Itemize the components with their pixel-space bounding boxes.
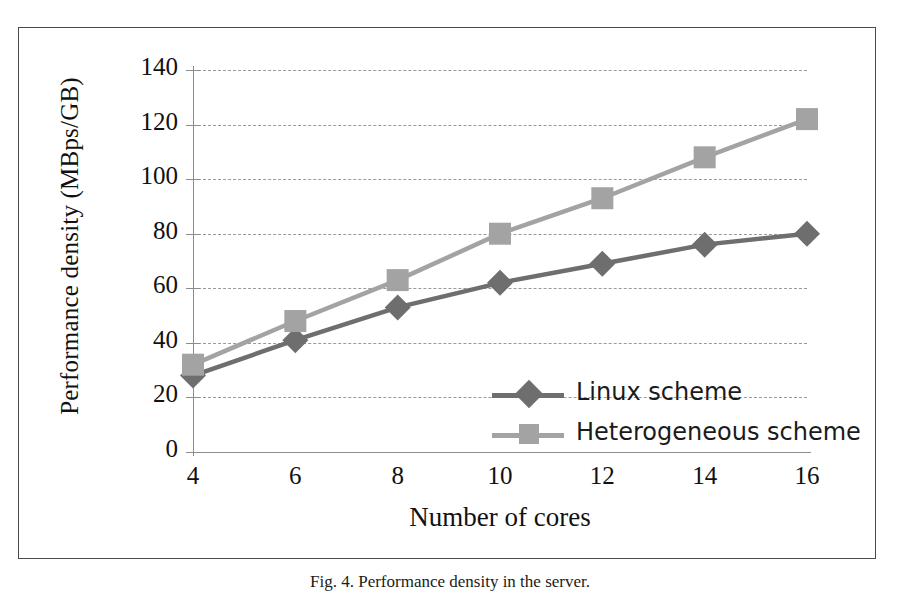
x-tick-label: 12 — [572, 462, 632, 490]
y-tick-label: 120 — [118, 108, 178, 136]
gridline — [193, 234, 807, 235]
gridline — [193, 288, 807, 289]
x-axis-title: Number of cores — [190, 502, 810, 533]
figure-container: Performance density (MBps/GB) 0204060801… — [0, 0, 900, 594]
gridline — [193, 125, 807, 126]
y-tick-mark — [186, 179, 200, 180]
x-tick-label: 16 — [777, 462, 837, 490]
y-tick-mark — [186, 343, 200, 344]
gridline — [193, 70, 807, 71]
y-tick-label: 20 — [118, 380, 178, 408]
legend-square-marker — [519, 424, 539, 444]
x-tick-label: 14 — [675, 462, 735, 490]
y-tick-label: 140 — [118, 53, 178, 81]
legend-label: Linux scheme — [576, 378, 742, 406]
chart-legend: Linux scheme Heterogeneous scheme — [492, 376, 822, 456]
legend-item-heterogeneous-scheme: Heterogeneous scheme — [492, 416, 822, 456]
legend-label: Heterogeneous scheme — [576, 418, 861, 446]
y-tick-label: 0 — [118, 435, 178, 463]
y-tick-mark — [186, 288, 200, 289]
gridline — [193, 343, 807, 344]
x-tick-label: 6 — [265, 462, 325, 490]
y-tick-mark — [186, 452, 200, 453]
y-tick-label: 80 — [118, 217, 178, 245]
x-tick-label: 4 — [163, 462, 223, 490]
y-tick-label: 40 — [118, 326, 178, 354]
figure-caption: Fig. 4. Performance density in the serve… — [0, 572, 900, 592]
y-tick-label: 60 — [118, 271, 178, 299]
y-tick-mark — [186, 70, 200, 71]
y-tick-mark — [186, 397, 200, 398]
y-tick-label: 100 — [118, 162, 178, 190]
legend-diamond-marker — [515, 380, 543, 408]
x-tick-label: 10 — [470, 462, 530, 490]
x-tick-label: 8 — [368, 462, 428, 490]
gridline — [193, 179, 807, 180]
y-axis-title: Performance density (MBps/GB) — [56, 56, 84, 436]
legend-item-linux-scheme: Linux scheme — [492, 376, 822, 416]
y-tick-mark — [186, 125, 200, 126]
y-tick-mark — [186, 234, 200, 235]
